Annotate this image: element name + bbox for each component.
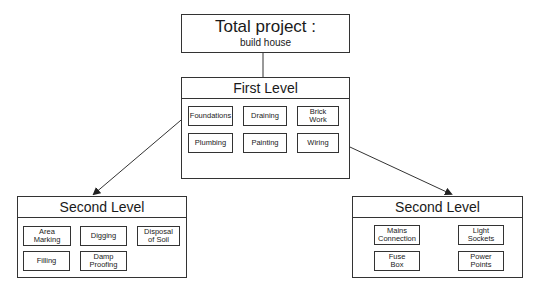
item-damp-proofing: Damp Proofing	[80, 251, 127, 271]
item-fuse-box: Fuse Box	[374, 251, 420, 271]
second-level-left-title: Second Level	[18, 197, 186, 218]
item-foundations: Foundations	[188, 106, 233, 126]
root-title: Total project :	[182, 18, 349, 36]
item-light-sockets: Light Sockets	[458, 225, 504, 245]
root-subtitle: build house	[182, 37, 349, 49]
item-plumbing: Plumbing	[188, 133, 233, 153]
item-brick-work: Brick Work	[297, 106, 339, 126]
root-node: Total project : build house	[181, 14, 350, 53]
wiring-arrow	[337, 141, 451, 194]
second-level-left-box: Second Level Area Marking Digging Dispos…	[17, 196, 187, 278]
item-area-marking: Area Marking	[23, 226, 71, 246]
second-level-right-box: Second Level Mains Connection Light Sock…	[352, 196, 523, 278]
item-wiring: Wiring	[297, 133, 339, 153]
item-filling: Filling	[23, 251, 70, 271]
item-digging: Digging	[80, 226, 127, 246]
item-power-points: Power Points	[458, 251, 504, 271]
item-painting: Painting	[243, 133, 287, 153]
item-mains-connection: Mains Connection	[374, 225, 420, 245]
first-level-title: First Level	[182, 78, 349, 99]
item-disposal-of-soil: Disposal of Soil	[137, 226, 180, 246]
foundations-arrow	[94, 115, 187, 194]
item-draining: Draining	[243, 106, 287, 126]
first-level-box: First Level Foundations Draining Brick W…	[181, 77, 350, 179]
second-level-right-title: Second Level	[353, 197, 522, 218]
